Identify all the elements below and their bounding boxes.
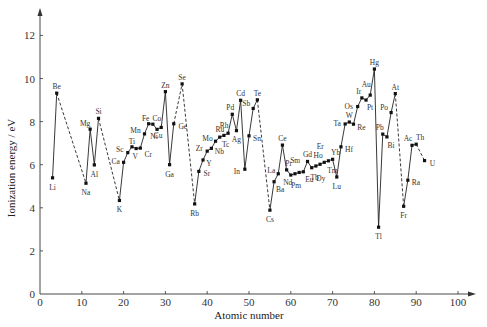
data-point-marker — [181, 82, 184, 85]
dashed-link — [182, 84, 195, 204]
x-axis-arrow-icon — [468, 292, 476, 297]
element-label: Sc — [116, 145, 124, 154]
data-point-marker — [135, 147, 138, 150]
element-label: Na — [82, 188, 91, 197]
x-tick-label: 30 — [160, 296, 172, 308]
data-point-marker — [122, 161, 125, 164]
y-tick-label: 4 — [30, 202, 36, 214]
element-label: Ac — [404, 134, 413, 143]
element-label: Mn — [130, 126, 141, 135]
element-label: V — [132, 152, 138, 161]
data-point-marker — [310, 166, 313, 169]
element-label: Hf — [345, 145, 353, 154]
element-label: Pb — [376, 123, 384, 132]
data-point-marker — [410, 144, 413, 147]
x-tick-label: 10 — [76, 296, 88, 308]
solid-link — [278, 145, 282, 174]
data-point-marker — [247, 134, 250, 137]
data-point-marker — [302, 170, 305, 173]
element-label: Dy — [316, 174, 325, 183]
element-label: La — [267, 166, 276, 175]
element-label: At — [392, 83, 400, 92]
solid-link — [199, 160, 203, 171]
data-point-marker — [327, 159, 330, 162]
element-label: Ta — [333, 119, 341, 128]
element-label: Pm — [291, 181, 301, 190]
data-point-marker — [139, 147, 142, 150]
data-point-marker — [281, 143, 284, 146]
solid-link — [404, 180, 408, 206]
element-label: Ho — [313, 151, 322, 160]
element-label: Mo — [202, 134, 213, 143]
element-label: U — [430, 159, 436, 168]
element-label: Er — [317, 142, 325, 151]
data-point-marker — [377, 226, 380, 229]
solid-link — [165, 92, 169, 165]
data-point-marker — [402, 205, 405, 208]
element-label: Ga — [165, 170, 174, 179]
data-point-marker — [168, 163, 171, 166]
element-label: Tl — [375, 232, 382, 241]
y-tick-label: 8 — [30, 116, 36, 128]
data-point-marker — [331, 158, 334, 161]
element-label: Ti — [129, 137, 135, 146]
data-point-marker — [277, 172, 280, 175]
data-point-marker — [293, 172, 296, 175]
x-tick-label: 70 — [327, 296, 339, 308]
data-point-marker — [55, 92, 58, 95]
x-axis-title: Atomic number — [214, 309, 284, 321]
element-label: Au — [362, 80, 371, 89]
element-label: Gd — [303, 150, 312, 159]
solid-link — [370, 69, 374, 95]
element-label: Cd — [236, 89, 245, 98]
solid-link — [228, 114, 232, 133]
element-label: Be — [53, 82, 62, 91]
data-point-marker — [172, 122, 175, 125]
dashed-link — [395, 94, 403, 207]
y-axis-arrow-icon — [38, 8, 43, 16]
element-label: Cr — [145, 150, 153, 159]
data-point-marker — [356, 105, 359, 108]
data-point-marker — [306, 160, 309, 163]
data-point-marker — [235, 129, 238, 132]
y-tick-label: 2 — [30, 245, 36, 257]
element-label: Fe — [142, 114, 150, 123]
data-point-marker — [344, 122, 347, 125]
element-label: Ge — [178, 122, 187, 131]
y-axis-title: Ionization energy / eV — [5, 119, 17, 218]
data-point-marker — [214, 140, 217, 143]
data-point-marker — [289, 173, 292, 176]
element-label: Rb — [190, 209, 199, 218]
element-label: In — [234, 167, 240, 176]
element-label: Ag — [232, 135, 241, 144]
solid-link — [161, 92, 165, 128]
element-label: Ra — [412, 178, 421, 187]
data-point-marker — [268, 209, 271, 212]
solid-link — [53, 93, 57, 178]
data-point-marker — [415, 143, 418, 146]
solid-link — [341, 124, 345, 147]
data-point-marker — [252, 107, 255, 110]
dashed-link — [416, 144, 424, 160]
element-label: Si — [95, 107, 101, 116]
solid-link — [354, 107, 358, 125]
data-point-marker — [364, 98, 367, 101]
solid-link — [408, 145, 412, 180]
element-label: Ce — [278, 134, 287, 143]
x-tick-label: 60 — [285, 296, 297, 308]
element-label: Lu — [333, 182, 342, 191]
data-point-marker — [93, 163, 96, 166]
element-label: Pd — [226, 103, 234, 112]
y-tick-label: 12 — [24, 29, 35, 41]
data-point-marker — [423, 159, 426, 162]
element-label: W — [346, 111, 354, 120]
element-label: Se — [178, 73, 186, 82]
data-point-marker — [369, 93, 372, 96]
element-label: Sn — [253, 134, 261, 143]
data-point-marker — [348, 120, 351, 123]
x-tick-label: 40 — [202, 296, 214, 308]
solid-link — [249, 108, 253, 135]
data-point-marker — [218, 136, 221, 139]
solid-link — [391, 94, 395, 113]
data-point-marker — [160, 126, 163, 129]
